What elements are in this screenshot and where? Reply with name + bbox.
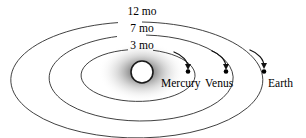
- orbit-label-venus: 7 mo: [130, 22, 154, 34]
- earth-label: Earth: [268, 77, 293, 89]
- earth-marker-group: Earth: [250, 50, 293, 89]
- venus-dot: [224, 69, 229, 74]
- venus-label: Venus: [205, 77, 234, 89]
- orbit-label-earth: 12 mo: [127, 5, 156, 17]
- mercury-label: Mercury: [161, 77, 201, 90]
- orbital-period-diagram: 12 mo 7 mo 3 mo Mercury Venus Earth: [0, 0, 306, 138]
- earth-direction-arrow: [250, 50, 264, 67]
- orbit-label-mercury: 3 mo: [130, 39, 154, 51]
- venus-marker-group: Venus: [205, 51, 234, 89]
- diagram-canvas: 12 mo 7 mo 3 mo Mercury Venus Earth: [0, 0, 306, 138]
- venus-direction-arrow: [212, 51, 226, 68]
- sun: [131, 61, 153, 83]
- mercury-dot: [186, 69, 191, 74]
- earth-dot: [262, 69, 267, 74]
